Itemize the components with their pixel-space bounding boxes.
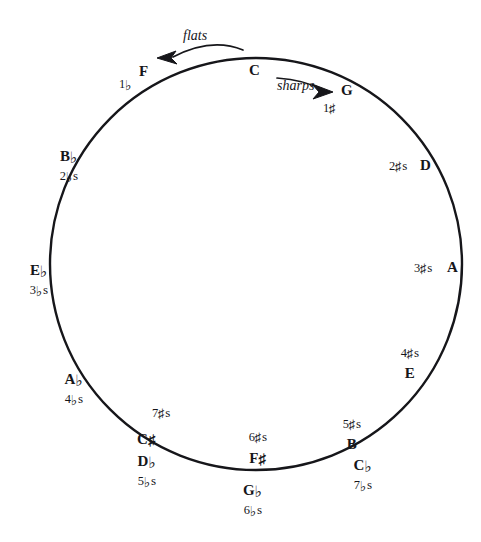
key-label-fsharp: F♯: [228, 450, 288, 467]
key-group-b: 5♯s B: [325, 417, 379, 453]
flat-icon: ♭: [66, 170, 73, 185]
key-group-e: 4♯s E: [381, 346, 439, 382]
key-label-gflat-letter: G: [243, 482, 255, 498]
key-count-fsharp: 6♯s: [228, 430, 288, 445]
flats-direction-label: flats: [183, 29, 207, 43]
key-group-bflat: B♭ 2♭s: [42, 147, 96, 184]
key-count-g: 1♯: [323, 101, 336, 114]
key-label-bflat: B♭: [42, 147, 96, 165]
key-count-csharp: 7♯s: [152, 406, 170, 419]
key-count-eflat-suffix: s: [43, 282, 48, 297]
sharp-icon: ♯: [258, 451, 266, 467]
key-count-e: 4♯s: [381, 346, 439, 361]
sharp-icon: ♯: [349, 417, 356, 432]
key-group-fsharp: 6♯s F♯: [228, 430, 288, 467]
circle-outline: [50, 58, 462, 470]
flat-icon: ♭: [71, 393, 78, 408]
flat-icon: ♭: [36, 284, 43, 299]
flat-icon: ♭: [255, 483, 263, 500]
flat-icon: ♭: [40, 263, 48, 280]
key-label-g: G: [341, 83, 353, 98]
key-label-aflat-letter: A: [65, 371, 76, 387]
key-group-gflat: G♭ 6♭s: [222, 481, 284, 518]
flat-icon: ♭: [148, 454, 156, 471]
key-count-b: 5♯s: [325, 417, 379, 432]
flat-icon: ♭: [125, 78, 132, 93]
key-label-csharp: C♯: [137, 432, 156, 447]
key-count-b-suffix: s: [356, 416, 361, 431]
key-label-c: C: [249, 63, 260, 78]
key-count-aflat: 4♭s: [47, 391, 101, 407]
key-label-gflat: G♭: [222, 481, 284, 499]
flat-icon: ♭: [144, 475, 151, 490]
key-label-aflat: A♭: [47, 370, 101, 388]
key-label-csharp-letter: C: [137, 431, 148, 447]
key-group-aflat: A♭ 4♭s: [47, 370, 101, 407]
key-label-bflat-letter: B: [60, 148, 70, 164]
key-label-f: F: [139, 64, 148, 79]
flat-icon: ♭: [75, 372, 83, 389]
key-label-eflat-letter: E: [30, 262, 40, 278]
key-label-cflat-letter: C: [354, 457, 365, 473]
flat-icon: ♭: [364, 458, 372, 475]
key-label-a: A: [447, 260, 458, 275]
key-count-aflat-suffix: s: [78, 391, 83, 406]
flat-icon: ♭: [360, 479, 367, 494]
sharp-icon: ♯: [395, 159, 402, 174]
key-count-bflat: 2♭s: [42, 168, 96, 184]
key-count-f: 1♭: [119, 77, 132, 91]
sharps-direction-label: sharps: [277, 79, 314, 93]
key-count-d: 2♯s: [389, 159, 407, 172]
key-count-d-suffix: s: [402, 158, 407, 173]
key-count-fsharp-suffix: s: [262, 429, 267, 444]
key-label-dflat: D♭: [118, 452, 176, 470]
key-count-gflat-suffix: s: [257, 502, 262, 517]
key-count-e-suffix: s: [414, 345, 419, 360]
key-count-csharp-suffix: s: [165, 405, 170, 420]
key-label-b: B: [325, 436, 379, 453]
key-count-cflat: 7♭s: [334, 477, 392, 493]
key-label-e: E: [381, 365, 439, 382]
key-label-dflat-letter: D: [138, 453, 149, 469]
flat-icon: ♭: [70, 149, 78, 166]
sharp-icon: ♯: [420, 261, 427, 276]
sharp-icon: ♯: [407, 346, 414, 361]
sharp-icon: ♯: [148, 432, 156, 448]
key-count-a: 3♯s: [414, 261, 432, 274]
key-group-dflat: D♭ 5♭s: [118, 452, 176, 489]
flats-arrow-icon: [157, 45, 243, 64]
key-count-dflat: 5♭s: [118, 473, 176, 489]
key-count-eflat: 3♭s: [12, 282, 66, 298]
key-count-a-suffix: s: [427, 260, 432, 275]
key-label-eflat: E♭: [12, 261, 66, 279]
sharp-icon: ♯: [158, 406, 165, 421]
key-group-cflat: C♭ 7♭s: [334, 456, 392, 493]
key-count-cflat-suffix: s: [367, 477, 372, 492]
sharp-icon: ♯: [329, 101, 336, 116]
key-label-d: D: [420, 158, 431, 173]
sharp-icon: ♯: [255, 430, 262, 445]
key-count-bflat-suffix: s: [73, 168, 78, 183]
key-count-dflat-suffix: s: [151, 473, 156, 488]
key-label-cflat: C♭: [334, 456, 392, 474]
key-group-eflat: E♭ 3♭s: [12, 261, 66, 298]
flat-icon: ♭: [250, 504, 257, 519]
key-count-gflat: 6♭s: [222, 502, 284, 518]
